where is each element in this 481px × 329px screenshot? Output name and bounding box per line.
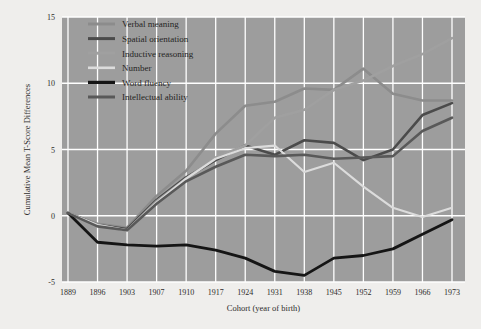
- x-tick-label: 1896: [90, 288, 106, 297]
- legend-label-0: Verbal meaning: [122, 19, 179, 29]
- x-tick-label: 1889: [60, 288, 76, 297]
- y-tick-label: 0: [51, 212, 55, 221]
- x-tick-label: 1917: [208, 288, 224, 297]
- y-tick-label: 10: [47, 79, 55, 88]
- legend-label-1: Spatial orientation: [122, 34, 189, 44]
- y-tick-label: 5: [51, 146, 55, 155]
- x-tick-labels: 1889189619031907191019171924193119381945…: [60, 288, 460, 297]
- x-tick-label: 1959: [385, 288, 401, 297]
- x-tick-label: 1938: [296, 288, 312, 297]
- x-tick-label: 1966: [414, 288, 430, 297]
- legend-label-5: Intellectual ability: [122, 92, 188, 102]
- y-tick-label: -5: [48, 278, 55, 287]
- legend-label-4: Word fluency: [122, 78, 172, 88]
- cohort-line-chart: -505101518891896190319071910191719241931…: [0, 0, 481, 329]
- legend-label-2: Inductive reasoning: [122, 49, 194, 59]
- y-tick-label: 15: [47, 13, 55, 22]
- legend-label-3: Number: [122, 63, 152, 73]
- x-tick-label: 1924: [237, 288, 253, 297]
- x-tick-label: 1952: [355, 288, 371, 297]
- chart-figure: -505101518891896190319071910191719241931…: [0, 0, 481, 329]
- x-tick-label: 1903: [119, 288, 135, 297]
- x-tick-label: 1931: [267, 288, 283, 297]
- x-axis-title: Cohort (year of birth): [227, 303, 301, 313]
- y-tick-labels: -5051015: [47, 13, 55, 287]
- x-tick-label: 1945: [326, 288, 342, 297]
- x-tick-label: 1973: [444, 288, 460, 297]
- x-tick-label: 1910: [178, 288, 194, 297]
- y-axis-title: Cumulative Mean T-Score Differences: [22, 84, 32, 215]
- x-tick-label: 1907: [149, 288, 165, 297]
